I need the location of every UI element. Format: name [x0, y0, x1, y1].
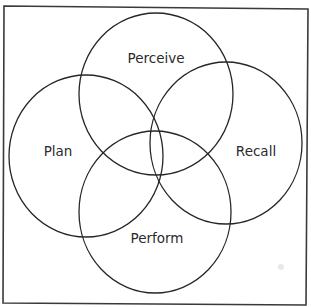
scan-artifact [278, 264, 284, 270]
perform-label: Perform [131, 230, 184, 246]
recall-circle [150, 62, 302, 224]
perform-circle [79, 131, 231, 293]
perceive-label: Perceive [128, 50, 185, 66]
perceive-circle [79, 13, 233, 175]
recall-label: Recall [236, 143, 276, 159]
plan-circle [9, 75, 163, 237]
venn-diagram: Perceive Plan Recall Perform [0, 0, 311, 307]
plan-label: Plan [44, 143, 73, 159]
